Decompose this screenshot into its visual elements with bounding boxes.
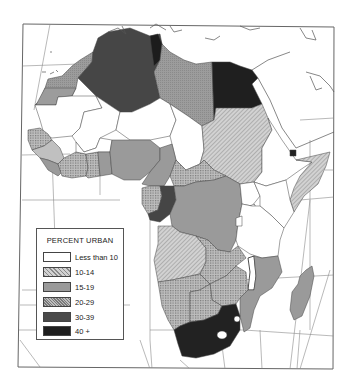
legend-swatch bbox=[43, 297, 71, 307]
legend-title: PERCENT URBAN bbox=[37, 236, 123, 245]
legend-swatch bbox=[43, 282, 71, 292]
legend-label: 40 + bbox=[75, 327, 90, 336]
legend-label: 10-14 bbox=[75, 268, 94, 277]
legend-item-40-plus: 40 + bbox=[43, 325, 90, 337]
legend-swatch bbox=[43, 252, 71, 262]
swaziland bbox=[234, 316, 240, 322]
legend-item-30-39: 30-39 bbox=[43, 311, 94, 323]
togo-dahomey bbox=[98, 152, 112, 176]
legend-swatch bbox=[43, 267, 71, 277]
legend-item-15-19: 15-19 bbox=[43, 281, 94, 293]
rwanda-burundi bbox=[236, 216, 242, 226]
ghana bbox=[86, 152, 100, 178]
legend: PERCENT URBAN Less than 10 10-14 15-19 2… bbox=[36, 228, 124, 340]
lesotho bbox=[217, 331, 227, 339]
legend-label: 20-29 bbox=[75, 298, 94, 307]
legend-item-10-14: 10-14 bbox=[43, 266, 94, 278]
legend-item-20-29: 20-29 bbox=[43, 296, 94, 308]
legend-label: 30-39 bbox=[75, 313, 94, 322]
legend-label: 15-19 bbox=[75, 283, 94, 292]
djibouti bbox=[290, 150, 296, 156]
legend-swatch bbox=[43, 312, 71, 322]
legend-item-less-than-10: Less than 10 bbox=[43, 251, 118, 263]
legend-label: Less than 10 bbox=[75, 253, 118, 262]
legend-swatch bbox=[43, 326, 71, 336]
